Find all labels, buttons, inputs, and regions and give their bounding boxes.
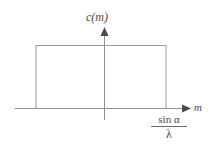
y-axis-label: c(m) (86, 11, 108, 23)
arrow-right-icon (182, 105, 191, 113)
figure-container: c(m) m sin α λ (0, 0, 212, 157)
cutoff-frequency-label: sin α λ (147, 114, 191, 140)
x-axis-label: m (194, 102, 202, 113)
cutoff-denominator: λ (147, 127, 191, 140)
rect-function-curve (36, 46, 166, 109)
arrow-up-icon (101, 27, 109, 36)
cutoff-numerator: sin α (147, 114, 191, 126)
